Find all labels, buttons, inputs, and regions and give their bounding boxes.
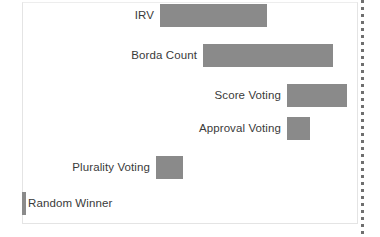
bar-label-score-voting: Score Voting: [0, 84, 281, 107]
bar-score-voting: [287, 84, 347, 107]
bar-label-approval-voting: Approval Voting: [0, 117, 281, 140]
bar-irv: [160, 4, 267, 27]
bar-label-irv: IRV: [0, 4, 154, 27]
bar-label-random-winner: Random Winner: [28, 192, 112, 215]
chart-row-random-winner: Random Winner: [0, 192, 380, 215]
chart-row-approval-voting: Approval Voting: [0, 117, 380, 140]
chart-row-score-voting: Score Voting: [0, 84, 380, 107]
bar-borda-count: [203, 44, 333, 67]
chart-row-irv: IRV: [0, 4, 380, 27]
bar-random-winner: [22, 192, 26, 215]
bar-approval-voting: [287, 117, 310, 140]
chart-plot-area: IRV Borda Count Score Voting Approval Vo…: [0, 0, 380, 237]
reference-line: [361, 0, 364, 237]
bar-label-borda-count: Borda Count: [0, 44, 197, 67]
bar-plurality-voting: [156, 156, 183, 179]
chart-row-plurality-voting: Plurality Voting: [0, 156, 380, 179]
chart-screenshot: IRV Borda Count Score Voting Approval Vo…: [0, 0, 380, 237]
bar-label-plurality-voting: Plurality Voting: [0, 156, 150, 179]
chart-row-borda-count: Borda Count: [0, 44, 380, 67]
